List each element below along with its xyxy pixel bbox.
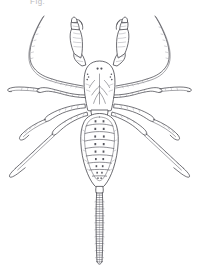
prosoma <box>84 61 115 111</box>
lateral-eye-right-3 <box>111 79 113 81</box>
figure-root: Fig. .ln { fill:none; stroke:#3a3a40; st… <box>0 0 199 273</box>
median-eye-right <box>100 68 102 70</box>
lateral-eye-right-2 <box>110 76 112 78</box>
lateral-eye-left-2 <box>88 76 90 78</box>
lateral-eye-left-1 <box>87 73 89 75</box>
median-eye-left <box>97 68 99 70</box>
lateral-eye-right-1 <box>111 73 113 75</box>
whip-scorpion-illustration: .ln { fill:none; stroke:#3a3a40; stroke-… <box>0 0 199 273</box>
figure-caption-fragment: Fig. <box>30 0 45 6</box>
lateral-eye-left-3 <box>86 79 88 81</box>
